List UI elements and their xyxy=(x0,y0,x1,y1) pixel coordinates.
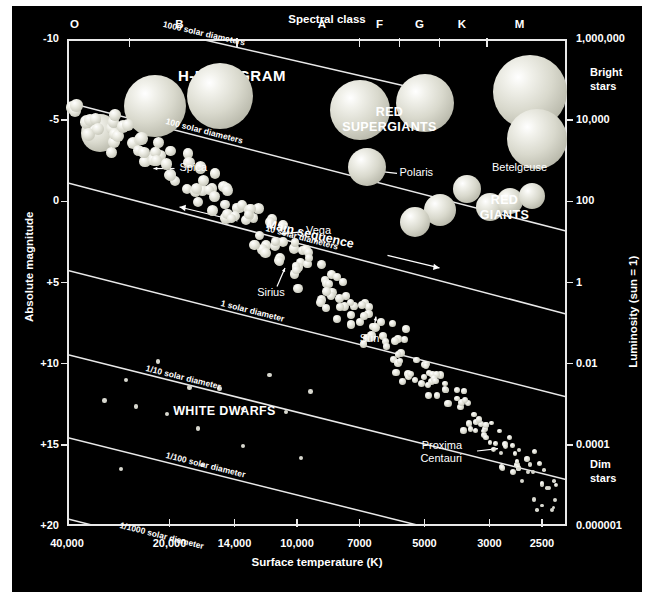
white-dwarf-star-8 xyxy=(267,373,272,378)
bright-stars-line-0: Bright xyxy=(590,66,622,80)
main-sequence-star-189 xyxy=(489,421,494,426)
main-sequence-star-77 xyxy=(260,248,270,258)
y2-tick xyxy=(566,282,573,284)
y-tick xyxy=(61,201,68,203)
surface-temperature-axis-title: Surface temperature (K) xyxy=(67,557,567,569)
x-tick xyxy=(169,519,171,527)
main-sequence-arrowhead-left xyxy=(180,205,187,211)
main-sequence-star-200 xyxy=(507,435,512,440)
star-label-betelgeuse: Betelgeuse xyxy=(470,161,570,174)
main-sequence-star-168 xyxy=(432,378,438,384)
spectral-class-label-f: F xyxy=(362,19,398,31)
region-label-line-1: SUPERGIANTS xyxy=(310,120,470,135)
main-sequence-star-84 xyxy=(275,257,284,266)
luminosity-tick-label: 10,000 xyxy=(576,114,610,125)
main-sequence-star-160 xyxy=(423,363,429,369)
main-sequence-star-115 xyxy=(333,315,341,323)
luminosity-tick-label: 0.000001 xyxy=(576,520,622,531)
bright-stars-line-1: stars xyxy=(590,80,622,94)
main-sequence-star-163 xyxy=(444,400,451,407)
y-tick-label: -5 xyxy=(21,114,59,125)
plot-area: -10-50+5+10+15+201,000,00010,00010010.01… xyxy=(67,39,567,526)
main-sequence-star-212 xyxy=(531,470,535,474)
main-sequence-star-228 xyxy=(545,486,549,490)
main-sequence-star-203 xyxy=(500,465,505,470)
region-label-line-0: RED xyxy=(310,105,470,120)
main-sequence-star-165 xyxy=(442,381,448,387)
main-sequence-star-96 xyxy=(317,260,326,269)
main-sequence-star-198 xyxy=(499,451,503,455)
white-dwarf-star-11 xyxy=(241,444,246,449)
main-sequence-star-82 xyxy=(271,237,280,246)
star-label-line-1: Centauri xyxy=(372,452,462,465)
x-tick xyxy=(424,519,426,527)
main-sequence-star-220 xyxy=(532,497,537,502)
main-sequence-star-202 xyxy=(510,469,516,475)
main-sequence-star-226 xyxy=(540,481,545,486)
main-sequence-star-18 xyxy=(122,119,134,131)
main-sequence-star-174 xyxy=(454,387,460,393)
white-dwarf-star-0 xyxy=(124,378,129,383)
spectral-class-label-o: O xyxy=(57,19,93,31)
luminosity-tick-label: 1,000,000 xyxy=(576,33,625,44)
main-sequence-star-207 xyxy=(513,451,518,456)
x-tick xyxy=(296,519,298,527)
spectral-class-label-a: A xyxy=(304,19,340,31)
region-label-line-0: RED xyxy=(425,193,585,208)
absolute-magnitude-axis-title: Absolute magnitude xyxy=(24,197,36,337)
y-tick-label: -10 xyxy=(21,33,59,44)
main-sequence-star-206 xyxy=(510,443,515,448)
main-sequence-star-213 xyxy=(516,467,520,471)
main-sequence-star-55 xyxy=(222,185,233,196)
main-sequence-star-51 xyxy=(207,205,218,216)
main-sequence-star-187 xyxy=(468,426,473,431)
white-dwarf-star-15 xyxy=(156,359,161,364)
figure-panel: Spectral class Absolute magnitude Lumino… xyxy=(12,6,642,592)
star-label-spica: Spica xyxy=(180,161,208,174)
main-sequence-star-224 xyxy=(535,508,539,512)
region-label-white-dwarfs: WHITE DWARFS xyxy=(145,404,305,419)
main-sequence-star-178 xyxy=(460,427,467,434)
star-label-sun: Sun xyxy=(320,332,420,345)
white-dwarf-star-14 xyxy=(299,456,304,461)
white-dwarf-star-4 xyxy=(187,385,192,390)
main-sequence-star-73 xyxy=(249,240,259,250)
x-tick xyxy=(489,519,491,527)
x-tick-label: 40,000 xyxy=(27,538,107,549)
y2-tick xyxy=(566,444,573,446)
spectral-class-label-g: G xyxy=(402,19,438,31)
main-sequence-star-110 xyxy=(339,278,348,287)
radius-line-label-4: 1/10 solar diameter xyxy=(145,364,222,391)
main-sequence-star-94 xyxy=(292,266,300,274)
supergiant-sphere-2 xyxy=(187,63,253,129)
main-sequence-star-53 xyxy=(209,191,220,202)
main-sequence-star-121 xyxy=(347,320,355,328)
main-sequence-star-48 xyxy=(193,197,203,207)
main-sequence-star-192 xyxy=(476,416,482,422)
region-label-red-giants: REDGIANTS xyxy=(425,193,585,223)
main-sequence-star-63 xyxy=(227,214,236,223)
main-sequence-arrowhead-right xyxy=(433,264,440,270)
main-sequence-star-45 xyxy=(210,168,221,179)
x-tick xyxy=(359,519,361,527)
main-sequence-star-231 xyxy=(552,506,555,509)
spectral-class-label-m: M xyxy=(502,19,538,31)
y2-tick xyxy=(566,119,573,121)
main-sequence-star-146 xyxy=(395,351,402,358)
main-sequence-star-155 xyxy=(413,357,420,364)
supergiant-sphere-7 xyxy=(348,148,386,186)
y-tick-label: +20 xyxy=(21,520,59,531)
white-dwarf-star-5 xyxy=(196,426,201,431)
main-sequence-star-218 xyxy=(537,461,542,466)
radius-line-label-3: 1 solar diameter xyxy=(220,299,285,323)
main-sequence-star-11 xyxy=(109,109,120,120)
dim-stars-note: Dimstars xyxy=(590,458,616,486)
luminosity-axis-title: Luminosity (sun = 1) xyxy=(628,232,640,392)
main-sequence-star-144 xyxy=(392,369,399,376)
main-sequence-star-172 xyxy=(442,386,448,392)
main-sequence-star-222 xyxy=(540,504,544,508)
main-sequence-star-216 xyxy=(526,470,530,474)
y-tick-label: +5 xyxy=(21,277,59,288)
region-label-red-supergiants: REDSUPERGIANTS xyxy=(310,105,470,135)
main-sequence-star-109 xyxy=(322,304,331,313)
